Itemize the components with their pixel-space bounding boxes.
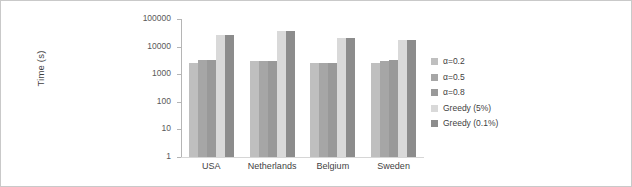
bar (216, 35, 225, 157)
bar (371, 63, 380, 157)
y-axis-tick-label: 10 (101, 124, 171, 133)
bar (398, 40, 407, 157)
y-axis-tick-labels: 100000100001000100101 (105, 1, 175, 187)
legend-item: Greedy (5%) (431, 103, 498, 114)
legend-item-label: Greedy (0.1%) (443, 119, 498, 128)
bar (346, 38, 355, 157)
y-axis-tick-label: 1000 (101, 69, 171, 78)
legend-color-swatch (431, 105, 438, 112)
bar (407, 40, 416, 157)
bar (389, 60, 398, 157)
legend-item: α=0.2 (431, 56, 498, 67)
legend-item-label: α=0.2 (443, 57, 465, 66)
bar (198, 60, 207, 157)
legend-item-label: α=0.8 (443, 88, 465, 97)
legend-color-swatch (431, 74, 438, 81)
legend-color-swatch (431, 89, 438, 96)
x-axis-baseline (181, 157, 424, 158)
bar-group (181, 19, 242, 157)
legend-item-label: Greedy (5%) (443, 104, 491, 113)
legend-item: α=0.8 (431, 87, 498, 98)
bar-groups (181, 19, 424, 157)
bar (380, 61, 389, 157)
bar (319, 63, 328, 157)
legend-color-swatch (431, 120, 438, 127)
bar (286, 31, 295, 157)
chart-legend: α=0.2α=0.5α=0.8Greedy (5%)Greedy (0.1%) (431, 56, 498, 129)
bar (259, 61, 268, 157)
y-axis-tick-label: 1 (101, 152, 171, 161)
bar-group (363, 19, 424, 157)
legend-color-swatch (431, 58, 438, 65)
bar (277, 31, 286, 157)
x-axis-category-labels: USANetherlandsBelgiumSweden (181, 161, 424, 171)
legend-item: α=0.5 (431, 72, 498, 83)
y-axis-tick-label: 100000 (101, 14, 171, 23)
x-axis-category-label: Netherlands (242, 161, 303, 171)
x-axis-category-label: Belgium (303, 161, 364, 171)
x-axis-category-label: Sweden (363, 161, 424, 171)
y-axis-title: Time (s) (35, 24, 46, 114)
bar-group (242, 19, 303, 157)
bar (225, 35, 234, 157)
bar (337, 38, 346, 157)
bar-group (303, 19, 364, 157)
bar (328, 63, 337, 157)
legend-item: Greedy (0.1%) (431, 118, 498, 129)
bar (268, 61, 277, 157)
y-axis-tick-label: 100 (101, 97, 171, 106)
y-axis-tick-label: 10000 (101, 42, 171, 51)
bar (189, 63, 198, 157)
bar (207, 60, 216, 157)
bar (250, 61, 259, 157)
chart-figure: Time (s) 100000100001000100101 USANether… (0, 0, 632, 187)
x-axis-category-label: USA (181, 161, 242, 171)
legend-item-label: α=0.5 (443, 73, 465, 82)
bar (310, 63, 319, 157)
